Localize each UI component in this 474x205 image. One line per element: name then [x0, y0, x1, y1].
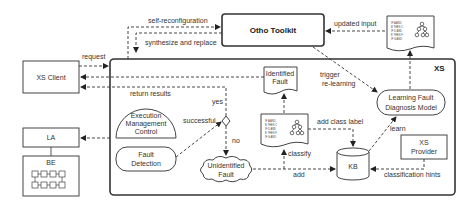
edge-fault-detection-to-decision	[176, 122, 221, 157]
la-node[interactable]: LA	[23, 128, 79, 147]
xs-container-label: XS	[434, 64, 445, 73]
classification-rules-document: IF A AND B THEN C IF D AND E THEN F IF G…	[261, 114, 308, 147]
svg-text:classification hints: classification hints	[384, 171, 441, 178]
otho-toolkit-label: Otho Toolkit	[250, 26, 297, 35]
svg-text:self-reconfiguration: self-reconfiguration	[148, 17, 208, 25]
svg-text:IF A AND: IF A AND	[265, 119, 276, 123]
edge-updated-input: updated input	[326, 20, 385, 31]
svg-text:E THEN F: E THEN F	[391, 33, 403, 37]
decision-diamond	[222, 116, 230, 126]
edge-learn: learn	[369, 117, 406, 151]
edge-add: add	[253, 169, 335, 178]
svg-text:IF G AND: IF G AND	[265, 135, 276, 139]
svg-text:IF G AND: IF G AND	[391, 37, 402, 41]
svg-text:re-learning: re-learning	[322, 80, 356, 88]
xs-client-node[interactable]: XS Client	[23, 61, 79, 93]
svg-text:Identified: Identified	[266, 70, 295, 77]
svg-text:Fault: Fault	[218, 171, 234, 178]
svg-text:add: add	[293, 171, 305, 178]
svg-text:XS Client: XS Client	[36, 74, 65, 81]
unidentified-fault-node[interactable]: Unidentified Fault	[201, 156, 252, 181]
svg-text:Control: Control	[135, 128, 158, 135]
svg-text:B THEN C: B THEN C	[265, 123, 277, 127]
architecture-diagram: XS Otho Toolkit IF A AND B THEN C IF D A…	[0, 0, 474, 205]
label-yes: yes	[212, 98, 223, 106]
svg-text:classify: classify	[288, 150, 311, 158]
edge-self-reconfiguration: self-reconfiguration	[128, 17, 220, 59]
svg-text:Fault: Fault	[272, 78, 288, 85]
svg-text:add class label: add class label	[317, 118, 364, 125]
execution-management-control-node[interactable]: Execution Management Control	[116, 109, 176, 138]
updated-rules-document: IF A AND B THEN C IF D AND E THEN F IF G…	[387, 16, 434, 51]
svg-text:Diagnosis Model: Diagnosis Model	[385, 104, 437, 112]
svg-text:trigger: trigger	[320, 71, 341, 79]
be-node[interactable]: BE	[23, 156, 79, 196]
svg-text:Provider: Provider	[411, 148, 438, 155]
identified-fault-node[interactable]: Identified Fault	[264, 67, 297, 94]
svg-text:IF D AND: IF D AND	[391, 29, 402, 33]
svg-text:LA: LA	[47, 134, 56, 141]
svg-text:request: request	[82, 53, 105, 61]
svg-text:B THEN C: B THEN C	[391, 25, 403, 29]
svg-text:Fault: Fault	[138, 151, 154, 158]
svg-text:no: no	[232, 137, 240, 144]
svg-text:Detection: Detection	[131, 160, 161, 167]
fault-detection-node[interactable]: Fault Detection	[116, 147, 176, 171]
svg-text:Unidentified: Unidentified	[208, 162, 245, 169]
edge-classify: classify	[284, 150, 311, 169]
label-successful: successful	[183, 117, 216, 124]
svg-text:BE: BE	[46, 159, 56, 166]
edge-trigger-relearning: trigger re-learning	[313, 47, 377, 92]
learning-fault-diagnosis-model-node[interactable]: Learning Fault Diagnosis Model	[377, 90, 445, 115]
svg-text:IF D AND: IF D AND	[265, 127, 276, 131]
svg-text:return results: return results	[130, 90, 171, 97]
svg-text:learn: learn	[390, 125, 406, 132]
edge-synthesize-and-replace: synthesize and replace	[136, 33, 222, 52]
svg-text:Management: Management	[126, 120, 167, 128]
svg-text:Execution: Execution	[131, 112, 162, 119]
svg-text:updated input: updated input	[334, 20, 376, 28]
edge-add-class-label: add class label	[308, 118, 364, 146]
edge-no: no	[226, 126, 240, 155]
svg-text:IF A AND: IF A AND	[391, 21, 402, 25]
xs-provider-node[interactable]: XS Provider	[401, 135, 447, 159]
edge-classification-hints: classification hints	[371, 159, 441, 178]
otho-toolkit-node[interactable]: Otho Toolkit	[222, 14, 324, 46]
svg-text:E THEN F: E THEN F	[265, 131, 277, 135]
svg-text:Learning Fault: Learning Fault	[389, 94, 434, 102]
svg-text:XS: XS	[419, 139, 429, 146]
svg-text:synthesize and replace: synthesize and replace	[145, 39, 217, 47]
edge-request: request	[79, 53, 108, 66]
kb-node[interactable]: KB	[337, 148, 369, 180]
svg-text:KB: KB	[348, 163, 358, 170]
